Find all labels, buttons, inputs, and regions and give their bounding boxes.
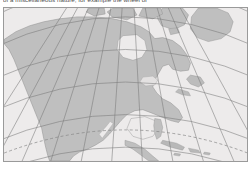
paper-tone-overlay <box>4 8 247 161</box>
map-frame <box>3 7 248 162</box>
figure-page: of a miscellaneous nature, for example t… <box>0 0 252 170</box>
figure-caption-text: of a miscellaneous nature, for example t… <box>3 0 249 4</box>
map-graphic[interactable] <box>4 8 247 161</box>
